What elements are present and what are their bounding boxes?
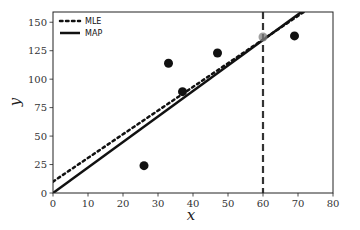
chart: 01020304050607080 0255075100125150 x y M…	[0, 0, 360, 230]
x-tick-label: 80	[327, 198, 340, 209]
legend-item-map: MAP	[60, 29, 102, 38]
y-axis-ticks: 0255075100125150	[28, 17, 53, 199]
y-tick-label: 150	[28, 17, 47, 28]
x-tick-label: 70	[292, 198, 305, 209]
y-tick-label: 100	[28, 74, 47, 85]
legend: MLE MAP	[60, 17, 102, 38]
y-tick-label: 75	[34, 102, 47, 113]
x-axis-label: x	[187, 206, 196, 224]
y-tick-label: 50	[34, 131, 47, 142]
legend-label-mle: MLE	[85, 17, 101, 26]
x-tick-label: 10	[82, 198, 95, 209]
x-tick-label: 0	[50, 198, 56, 209]
y-tick-label: 125	[28, 45, 47, 56]
data-point	[164, 59, 173, 68]
y-tick-label: 25	[34, 159, 47, 170]
highlight-point	[259, 33, 268, 42]
x-tick-label: 30	[152, 198, 165, 209]
x-tick-label: 20	[117, 198, 130, 209]
plot-frame	[53, 12, 333, 193]
legend-label-map: MAP	[85, 29, 102, 38]
y-tick-label: 0	[41, 188, 47, 199]
data-point	[290, 31, 299, 40]
data-point	[140, 161, 149, 170]
x-tick-label: 50	[222, 198, 235, 209]
data-point	[213, 48, 222, 57]
legend-item-mle: MLE	[60, 17, 101, 26]
y-axis-label: y	[6, 97, 24, 107]
x-tick-label: 60	[257, 198, 270, 209]
data-point	[178, 87, 187, 96]
